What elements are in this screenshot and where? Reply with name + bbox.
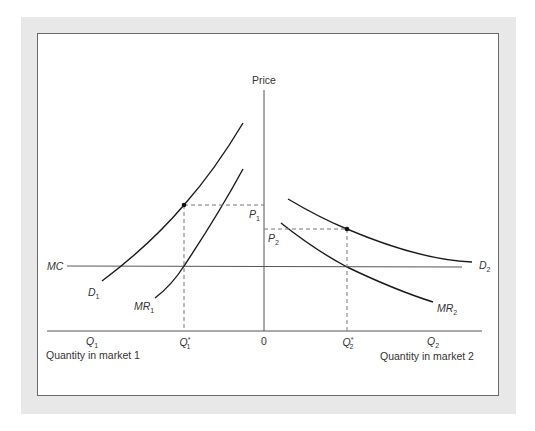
mr-curve-1 [155,169,243,298]
price-axis-label: Price [252,75,276,86]
equilibrium-point-1 [182,203,187,208]
demand-curve-2 [288,199,472,262]
demand-curve-1 [102,123,243,281]
mr1-label: MR1 [134,301,154,314]
mr2-label: MR2 [437,303,457,316]
market2-quantity-label: Quantity in market 2 [380,351,474,362]
origin-label: 0 [261,336,267,347]
q1-star-label: Q*1 [180,336,191,350]
mc-line [67,266,462,267]
q2-label: Q2 [427,336,439,349]
equilibrium-point-2 [345,227,350,232]
q1-label: Q1 [86,336,98,349]
d1-label: D1 [88,287,100,300]
p1-label: P1 [249,209,260,222]
mc-label: MC [47,261,63,272]
p2-label: P2 [268,233,279,246]
q2-star-label: Q*2 [343,336,354,350]
mr-curve-2 [281,223,433,302]
market1-quantity-label: Quantity in market 1 [46,350,140,361]
d2-label: D2 [479,260,491,273]
price-discrimination-diagram [0,0,535,431]
